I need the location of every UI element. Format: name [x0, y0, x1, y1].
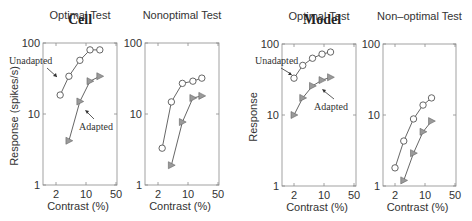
data-point-unadapted: [392, 165, 398, 171]
x-axis-label: Contrast (%): [387, 201, 449, 213]
data-point-adapted: [401, 177, 408, 184]
data-point-adapted: [291, 112, 298, 119]
data-point-adapted: [319, 77, 326, 84]
data-point-unadapted: [327, 49, 333, 55]
data-point-unadapted: [410, 116, 416, 122]
data-point-unadapted: [190, 78, 196, 84]
y-tick-label: 1: [374, 180, 380, 192]
y-tick-label: 1: [136, 179, 142, 191]
data-point-unadapted: [97, 47, 103, 53]
x-tick-label: 2: [155, 188, 161, 200]
series-line: [60, 50, 100, 95]
x-tick-label: 10: [318, 189, 330, 201]
y-tick-label: 10: [368, 109, 380, 121]
y-axis-label: Response: [247, 92, 259, 142]
y-tick-label: 100: [362, 38, 380, 50]
data-point-unadapted: [420, 102, 426, 108]
data-point-adapted: [429, 118, 436, 125]
data-point-unadapted: [179, 80, 185, 86]
axes-frame: [43, 43, 117, 185]
annotation-adapted: Adapted: [79, 121, 113, 132]
x-tick-label: 50: [212, 188, 224, 200]
y-tick-label: 10: [28, 108, 40, 120]
data-point-unadapted: [66, 73, 72, 79]
series-line: [171, 96, 201, 165]
data-point-adapted: [310, 82, 317, 89]
panel-title: Optimal Test: [50, 9, 111, 21]
data-point-unadapted: [168, 99, 174, 105]
data-point-unadapted: [57, 92, 63, 98]
x-axis-label: Contrast (%): [286, 201, 348, 213]
x-tick-label: 10: [182, 188, 194, 200]
data-point-unadapted: [291, 75, 297, 81]
y-tick-label: 1: [34, 179, 40, 191]
data-point-adapted: [77, 98, 84, 105]
data-point-adapted: [87, 78, 94, 85]
series-line: [395, 98, 432, 168]
data-point-adapted: [300, 94, 307, 101]
data-point-adapted: [328, 74, 335, 81]
y-axis-label: Response (spikes/s): [8, 66, 20, 166]
series-line: [404, 121, 432, 180]
x-tick-label: 50: [348, 189, 360, 201]
y-tick-label: 10: [267, 109, 279, 121]
x-tick-label: 10: [419, 189, 431, 201]
axes-frame: [145, 43, 219, 185]
data-point-adapted: [411, 150, 418, 157]
data-point-unadapted: [401, 138, 407, 144]
annotation-unadapted: Unadapted: [9, 55, 52, 66]
figure: CellModelOptimal Test11010021050Contrast…: [0, 0, 472, 221]
y-tick-label: 100: [261, 38, 279, 50]
data-point-unadapted: [319, 51, 325, 57]
x-tick-label: 50: [110, 188, 122, 200]
x-tick-label: 2: [53, 188, 59, 200]
x-axis-label: Contrast (%): [149, 200, 211, 212]
data-point-adapted: [420, 128, 427, 135]
data-point-unadapted: [87, 47, 93, 53]
y-tick-label: 100: [22, 37, 40, 49]
data-point-unadapted: [428, 95, 434, 101]
y-tick-label: 1: [273, 180, 279, 192]
data-point-unadapted: [159, 145, 165, 151]
x-tick-label: 2: [291, 189, 297, 201]
data-point-unadapted: [77, 57, 83, 63]
data-point-unadapted: [300, 62, 306, 68]
data-point-adapted: [179, 119, 186, 126]
x-tick-label: 10: [80, 188, 92, 200]
x-tick-label: 50: [449, 189, 461, 201]
data-point-adapted: [190, 95, 197, 102]
y-tick-label: 100: [124, 37, 142, 49]
panel-title: Nonoptimal Test: [143, 9, 222, 21]
annotation-unadapted: Unadapted: [255, 55, 298, 66]
y-tick-label: 10: [130, 108, 142, 120]
data-point-adapted: [97, 73, 104, 80]
panel-title: Optimal Test: [289, 10, 350, 22]
annotation-adapted: Adapted: [314, 101, 348, 112]
panel-title: Non–optimal Test: [377, 10, 462, 22]
x-tick-label: 2: [392, 189, 398, 201]
data-point-unadapted: [309, 55, 315, 61]
series-line: [162, 78, 202, 148]
x-axis-label: Contrast (%): [47, 200, 109, 212]
data-point-unadapted: [199, 75, 205, 81]
data-point-adapted: [199, 92, 206, 99]
